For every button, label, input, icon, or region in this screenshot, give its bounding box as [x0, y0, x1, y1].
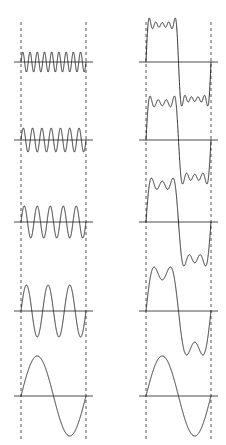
fourier-series-canvas — [0, 0, 226, 445]
fourier-series-figure — [0, 0, 226, 445]
waveform-paths-group — [21, 18, 211, 436]
guide-lines-group — [21, 22, 211, 440]
axis-lines-group — [14, 62, 218, 396]
